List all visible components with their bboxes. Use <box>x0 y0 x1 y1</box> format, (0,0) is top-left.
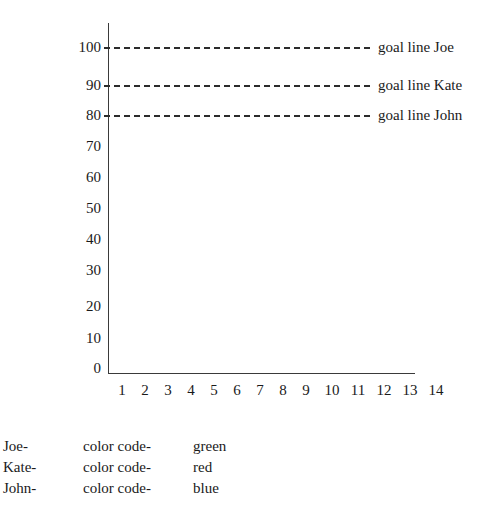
x-tick-label: 10 <box>325 382 340 398</box>
y-tick-label: 60 <box>0 170 101 185</box>
legend-person-name: Kate- <box>3 457 36 478</box>
legend-person-name: John- <box>3 478 36 499</box>
legend-color-value: blue <box>193 478 219 499</box>
color-code-legend: Joe- color code- green Kate- color code-… <box>0 436 499 499</box>
y-tick-label: 90 <box>0 78 101 93</box>
y-axis-tick-labels: 100 90 80 70 60 50 40 30 20 10 0 <box>0 0 101 430</box>
legend-person-name: Joe- <box>3 436 28 457</box>
y-tick-label: 50 <box>0 201 101 216</box>
x-tick-label: 12 <box>377 382 392 398</box>
y-tick-label: 30 <box>0 263 101 278</box>
x-axis-line <box>108 373 415 374</box>
goal-line-kate <box>104 85 370 87</box>
goal-line-label-kate: goal line Kate <box>378 78 462 93</box>
x-tick-label: 6 <box>233 382 241 398</box>
legend-row: John- color code- blue <box>0 478 499 499</box>
goal-line-john <box>104 115 370 117</box>
legend-code-label: color code- <box>83 457 151 478</box>
legend-code-label: color code- <box>83 478 151 499</box>
chart-figure: 100 90 80 70 60 50 40 30 20 10 0 goal li… <box>0 0 499 430</box>
goal-line-joe <box>104 47 370 49</box>
y-tick-label: 10 <box>0 331 101 346</box>
goal-line-label-john: goal line John <box>378 108 462 123</box>
legend-color-value: red <box>193 457 212 478</box>
y-tick-label: 80 <box>0 108 101 123</box>
x-tick-label: 11 <box>351 382 365 398</box>
y-tick-label: 70 <box>0 139 101 154</box>
y-tick-label: 40 <box>0 232 101 247</box>
x-tick-label: 14 <box>429 382 444 398</box>
legend-row: Kate- color code- red <box>0 457 499 478</box>
x-tick-label: 7 <box>256 382 264 398</box>
goal-line-label-joe: goal line Joe <box>378 40 454 55</box>
x-axis-tick-labels: 1 2 3 4 5 6 7 8 9 10 11 12 13 14 <box>108 382 428 404</box>
x-tick-label: 8 <box>279 382 287 398</box>
y-axis-line <box>108 23 109 374</box>
legend-row: Joe- color code- green <box>0 436 499 457</box>
x-tick-label: 9 <box>302 382 310 398</box>
y-tick-label: 0 <box>0 361 101 376</box>
x-tick-label: 3 <box>164 382 172 398</box>
x-tick-label: 2 <box>141 382 149 398</box>
legend-color-value: green <box>193 436 226 457</box>
x-tick-label: 4 <box>187 382 195 398</box>
y-tick-label: 100 <box>0 40 101 55</box>
x-tick-label: 1 <box>118 382 126 398</box>
y-tick-label: 20 <box>0 299 101 314</box>
x-tick-label: 13 <box>403 382 418 398</box>
x-tick-label: 5 <box>210 382 218 398</box>
legend-code-label: color code- <box>83 436 151 457</box>
